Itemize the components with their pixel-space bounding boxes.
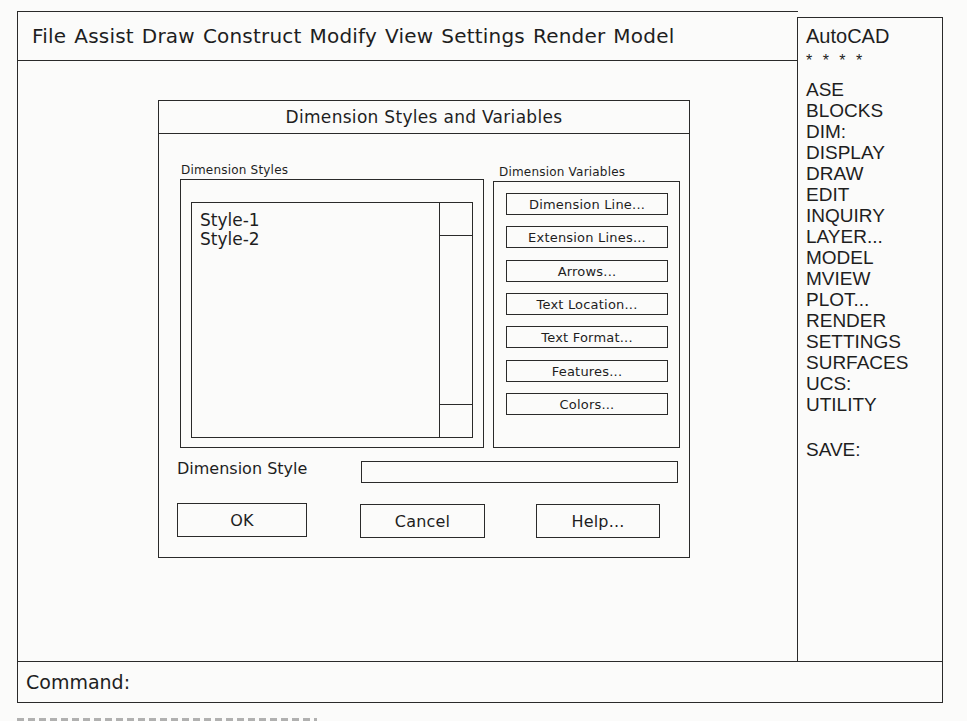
menu-draw[interactable]: Draw <box>142 24 195 48</box>
scroll-track[interactable] <box>440 236 472 404</box>
command-line[interactable]: Command: <box>17 661 943 703</box>
screen-menu-item-display[interactable]: DISPLAY <box>806 142 942 163</box>
dimension-line-button[interactable]: Dimension Line... <box>506 193 668 215</box>
colors-button[interactable]: Colors... <box>506 393 668 415</box>
screen-menu-item-surfaces[interactable]: SURFACES <box>806 352 942 373</box>
arrows-button[interactable]: Arrows... <box>506 260 668 282</box>
screen-menu-item-save[interactable]: SAVE: <box>806 439 942 460</box>
variables-group: Dimension Line... Extension Lines... Arr… <box>493 181 680 448</box>
screen-menu-separator[interactable]: * * * * <box>806 50 942 71</box>
dimension-style-label: Dimension Style <box>177 459 307 478</box>
screen-menu-title[interactable]: AutoCAD <box>806 26 942 47</box>
features-button[interactable]: Features... <box>506 360 668 382</box>
menu-file[interactable]: File <box>32 24 66 48</box>
style-list-item[interactable]: Style-1 <box>200 211 260 230</box>
screen-menu-item-blocks[interactable]: BLOCKS <box>806 100 942 121</box>
styles-scrollbar[interactable] <box>439 203 472 437</box>
extension-lines-button[interactable]: Extension Lines... <box>506 226 668 248</box>
styles-listbox[interactable]: Style-1 Style-2 <box>191 202 473 438</box>
dimension-style-field[interactable] <box>361 461 678 483</box>
screen-menu-item-edit[interactable]: EDIT <box>806 184 942 205</box>
styles-group-label: Dimension Styles <box>181 163 288 177</box>
text-format-button[interactable]: Text Format... <box>506 326 668 348</box>
menu-bar: File Assist Draw Construct Modify View S… <box>17 11 798 61</box>
ok-button[interactable]: OK <box>177 503 307 537</box>
screen-menu-item-ase[interactable]: ASE <box>806 79 942 100</box>
dimension-styles-dialog: Dimension Styles and Variables Dimension… <box>158 100 690 558</box>
screen-menu-item-dim[interactable]: DIM: <box>806 121 942 142</box>
screen-menu-item-utility[interactable]: UTILITY <box>806 394 942 415</box>
scroll-up-button[interactable] <box>440 203 472 236</box>
cancel-button[interactable]: Cancel <box>360 504 485 538</box>
menu-render[interactable]: Render <box>533 24 605 48</box>
screen-menu: AutoCAD * * * * ASE BLOCKS DIM: DISPLAY … <box>797 17 943 662</box>
screen-menu-item-model[interactable]: MODEL <box>806 247 942 268</box>
help-button[interactable]: Help... <box>536 504 660 538</box>
menu-view[interactable]: View <box>385 24 433 48</box>
screen-menu-item-mview[interactable]: MVIEW <box>806 268 942 289</box>
screen-menu-item-settings[interactable]: SETTINGS <box>806 331 942 352</box>
screen-menu-item-plot[interactable]: PLOT... <box>806 289 942 310</box>
style-list-item[interactable]: Style-2 <box>200 230 260 249</box>
screen-menu-item-layer[interactable]: LAYER... <box>806 226 942 247</box>
screen-menu-item-render[interactable]: RENDER <box>806 310 942 331</box>
text-location-button[interactable]: Text Location... <box>506 293 668 315</box>
dialog-title: Dimension Styles and Variables <box>159 101 689 134</box>
menu-settings[interactable]: Settings <box>441 24 525 48</box>
styles-group: Style-1 Style-2 <box>180 179 484 448</box>
cropped-caption <box>17 712 317 721</box>
command-prompt: Command: <box>26 671 130 693</box>
screen-menu-item-draw[interactable]: DRAW <box>806 163 942 184</box>
dimension-style-value <box>362 464 368 480</box>
menu-construct[interactable]: Construct <box>203 24 302 48</box>
screen-menu-spacer <box>806 415 942 439</box>
menu-modify[interactable]: Modify <box>310 24 377 48</box>
menu-model[interactable]: Model <box>613 24 674 48</box>
screen-menu-item-inquiry[interactable]: INQUIRY <box>806 205 942 226</box>
scroll-down-button[interactable] <box>440 404 472 437</box>
screen-menu-item-ucs[interactable]: UCS: <box>806 373 942 394</box>
variables-group-label: Dimension Variables <box>499 165 625 179</box>
menu-assist[interactable]: Assist <box>74 24 134 48</box>
